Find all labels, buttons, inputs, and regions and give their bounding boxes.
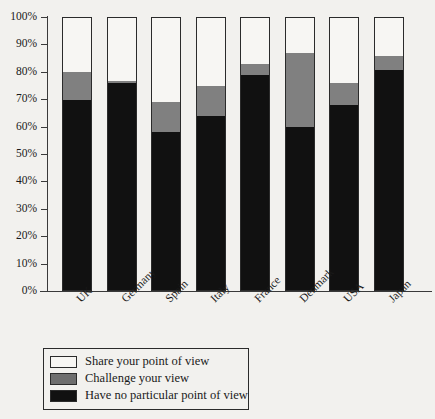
bar-segment-no-view (63, 100, 91, 290)
bar-segment-share (241, 18, 269, 64)
bar-group (374, 17, 404, 291)
stacked-bar (285, 17, 315, 291)
y-axis-tick-label: 50% (0, 148, 37, 160)
plot-area (48, 17, 428, 291)
y-axis-tick-label: 80% (0, 66, 37, 78)
bar-segment-challenge (241, 64, 269, 75)
y-axis-tick (41, 72, 47, 73)
bar-group (62, 17, 92, 291)
x-axis-line (40, 291, 432, 292)
bar-segment-challenge (375, 56, 403, 70)
bar-segment-share (63, 18, 91, 72)
bar-segment-no-view (152, 132, 180, 290)
legend-item: Share your point of view (50, 353, 242, 370)
y-axis-tick-label: 30% (0, 203, 37, 215)
legend-item: Challenge your view (50, 370, 242, 387)
gray-swatch (50, 373, 77, 385)
y-axis-tick-label: 20% (0, 230, 37, 242)
y-axis-tick (41, 44, 47, 45)
bar-segment-no-view (286, 127, 314, 290)
y-axis-tick-label: 0% (0, 285, 37, 297)
y-axis-tick (41, 264, 47, 265)
bar-group (285, 17, 315, 291)
bar-group (107, 17, 137, 291)
black-swatch (50, 390, 77, 402)
stacked-bar-chart: 0%10%20%30%40%50%60%70%80%90%100% UKGerm… (0, 0, 435, 419)
bar-segment-share (375, 18, 403, 56)
bar-segment-share (152, 18, 180, 102)
y-axis-tick (41, 291, 47, 292)
white-swatch (50, 356, 77, 368)
legend-item-label: Have no particular point of view (85, 389, 248, 402)
bar-segment-share (286, 18, 314, 53)
bar-segment-share (330, 18, 358, 83)
bar-segment-no-view (241, 75, 269, 290)
stacked-bar (62, 17, 92, 291)
y-axis-tick (41, 99, 47, 100)
bar-segment-share (108, 18, 136, 81)
y-axis-tick (41, 209, 47, 210)
stacked-bar (240, 17, 270, 291)
y-axis-tick (41, 236, 47, 237)
bar-segment-no-view (375, 70, 403, 290)
y-axis-tick-label: 100% (0, 11, 37, 23)
legend-item-label: Share your point of view (85, 355, 209, 368)
bar-group (240, 17, 270, 291)
legend-item-label: Challenge your view (85, 372, 189, 385)
stacked-bar (151, 17, 181, 291)
bar-segment-no-view (197, 116, 225, 290)
y-axis-tick-label: 60% (0, 121, 37, 133)
bar-group (151, 17, 181, 291)
y-axis-tick-label: 40% (0, 175, 37, 187)
bar-group (196, 17, 226, 291)
y-axis-tick (41, 154, 47, 155)
y-axis-tick-label: 90% (0, 38, 37, 50)
chart-legend: Share your point of viewChallenge your v… (43, 348, 249, 410)
bar-group (329, 17, 359, 291)
y-axis-tick (41, 127, 47, 128)
bar-segment-challenge (286, 53, 314, 126)
y-axis-tick (41, 17, 47, 18)
bar-segment-share (197, 18, 225, 86)
y-axis-tick-label: 70% (0, 93, 37, 105)
bar-segment-no-view (108, 83, 136, 290)
y-axis-tick-label: 10% (0, 258, 37, 270)
bar-segment-no-view (330, 105, 358, 290)
stacked-bar (374, 17, 404, 291)
legend-item: Have no particular point of view (50, 387, 242, 404)
bar-segment-challenge (330, 83, 358, 105)
bar-segment-challenge (197, 86, 225, 116)
stacked-bar (107, 17, 137, 291)
stacked-bar (196, 17, 226, 291)
bar-segment-challenge (63, 72, 91, 99)
stacked-bar (329, 17, 359, 291)
bar-segment-challenge (152, 102, 180, 132)
y-axis-tick (41, 181, 47, 182)
